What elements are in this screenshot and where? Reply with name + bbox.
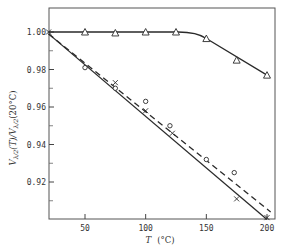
circle-marker — [83, 65, 87, 69]
cross-marker — [113, 80, 118, 85]
chart: 0.920.940.960.981.00 50100150200 Vλ/2(T)… — [0, 0, 285, 251]
triangles-fit-line — [49, 32, 267, 75]
data-markers — [46, 29, 270, 221]
triangle-marker — [203, 35, 210, 42]
x-tick-label: 150 — [199, 224, 214, 233]
plot-border — [49, 8, 275, 219]
x-axis-ticks: 50100150200 — [80, 214, 274, 233]
y-axis-label: Vλ/2(T)/Vλ/2(20°C) — [8, 91, 19, 166]
triangle-marker — [112, 29, 119, 36]
svg-text:Vλ/2(T)/Vλ/2(20°C): Vλ/2(T)/Vλ/2(20°C) — [8, 91, 19, 166]
x-tick-label: 100 — [138, 224, 153, 233]
circle-marker — [168, 124, 172, 128]
y-tick-label: 0.98 — [27, 66, 46, 75]
y-tick-label: 0.94 — [27, 141, 46, 150]
circle-marker — [113, 86, 117, 90]
circle-marker — [204, 157, 208, 161]
circle-marker — [232, 170, 236, 174]
triangle-marker — [264, 72, 271, 79]
circle-marker — [143, 99, 147, 103]
cross-marker — [234, 196, 239, 201]
x-tick-label: 200 — [260, 224, 275, 233]
y-axis-ticks: 0.920.940.960.981.00 — [27, 28, 54, 201]
y-tick-label: 1.00 — [27, 28, 46, 37]
x-tick-label: 50 — [80, 224, 90, 233]
cross-marker — [170, 131, 175, 136]
x-axis-label: T(°C) — [145, 235, 174, 245]
y-tick-label: 0.96 — [27, 103, 46, 112]
y-tick-label: 0.92 — [27, 178, 46, 187]
plot-frame — [49, 8, 275, 219]
